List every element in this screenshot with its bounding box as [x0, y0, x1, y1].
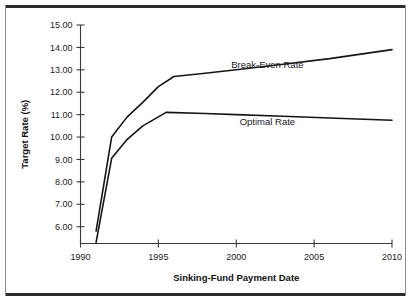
x-tick-label: 1995 [148, 252, 168, 262]
y-tick-label: 13.00 [50, 65, 73, 75]
y-tick-label: 10.00 [50, 132, 73, 142]
y-axis-title: Target Rate (%) [19, 100, 30, 169]
y-axis: 6.007.008.009.0010.0011.0012.0013.0014.0… [50, 20, 85, 243]
x-tick-label: 2010 [382, 252, 402, 262]
y-tick-label: 14.00 [50, 43, 73, 53]
series-annotation-label: Optimal Rate [240, 116, 295, 127]
x-tick-label: 1990 [70, 252, 90, 262]
y-tick-label: 15.00 [50, 20, 73, 30]
x-axis-title: Sinking-Fund Payment Date [173, 272, 299, 283]
series-annotation-label: Break-Even Rate [231, 59, 303, 70]
series-annotations: Break-Even RateOptimal Rate [231, 59, 303, 127]
series-line [96, 50, 392, 232]
y-axis-tick-labels: 6.007.008.009.0010.0011.0012.0013.0014.0… [50, 20, 73, 232]
y-tick-label: 9.00 [55, 155, 73, 165]
y-tick-label: 11.00 [51, 110, 73, 120]
x-tick-label: 2000 [226, 252, 246, 262]
y-tick-label: 8.00 [55, 177, 73, 187]
y-tick-label: 7.00 [55, 199, 73, 209]
line-chart: 6.007.008.009.0010.0011.0012.0013.0014.0… [0, 0, 411, 301]
y-tick-label: 6.00 [55, 222, 73, 232]
x-axis: 19901995200020052010 [70, 240, 402, 262]
series-line [96, 112, 392, 242]
x-axis-tick-labels: 19901995200020052010 [70, 252, 402, 262]
x-tick-label: 2005 [304, 252, 324, 262]
data-series-group [96, 50, 392, 243]
figure-container: 6.007.008.009.0010.0011.0012.0013.0014.0… [0, 0, 411, 301]
y-tick-label: 12.00 [50, 87, 73, 97]
